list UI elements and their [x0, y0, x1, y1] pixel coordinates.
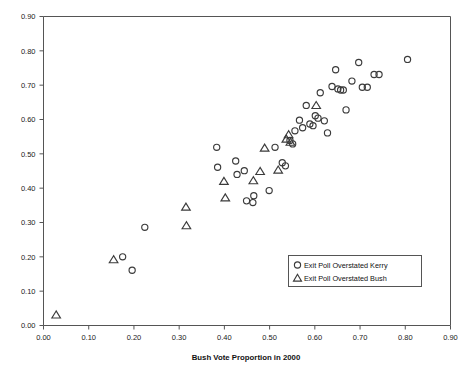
x-tick-label: 0.40	[217, 333, 232, 342]
legend-item-label: Exit Poll Overstated Kerry	[304, 261, 388, 270]
plot-canvas: 0.000.100.200.300.400.500.600.700.800.90…	[0, 0, 473, 375]
series-kerry	[120, 56, 411, 273]
data-point-circle	[250, 199, 256, 205]
legend-item-label: Exit Poll Overstated Bush	[304, 274, 387, 283]
y-tick-label: 0.90	[21, 12, 36, 21]
data-point-circle	[300, 125, 306, 131]
data-point-triangle	[256, 167, 265, 174]
x-tick-label: 0.20	[127, 333, 142, 342]
data-point-circle	[317, 90, 323, 96]
data-point-circle	[343, 107, 349, 113]
x-axis-title: Bush Vote Proportion in 2000	[192, 353, 301, 362]
series-bush	[52, 102, 321, 318]
y-tick-label: 0.00	[21, 321, 36, 330]
data-point-triangle	[282, 135, 291, 142]
y-tick-label: 0.40	[21, 184, 36, 193]
data-point-triangle	[221, 194, 230, 201]
data-point-circle	[349, 78, 355, 84]
x-tick-label: 0.50	[262, 333, 277, 342]
data-point-circle	[241, 168, 247, 174]
data-point-circle	[303, 102, 309, 108]
data-point-triangle	[312, 102, 321, 109]
y-tick-label: 0.60	[21, 115, 36, 124]
x-tick-label: 0.90	[443, 333, 458, 342]
data-point-circle	[214, 144, 220, 150]
data-point-triangle	[249, 177, 258, 184]
data-point-circle	[333, 67, 339, 73]
data-point-circle	[215, 164, 221, 170]
data-point-circle	[356, 59, 362, 65]
data-point-circle	[404, 56, 410, 62]
data-point-circle	[234, 171, 240, 177]
chart-legend: Exit Poll Overstated KerryExit Poll Over…	[289, 256, 422, 287]
data-point-circle	[142, 224, 148, 230]
data-point-circle	[329, 83, 335, 89]
data-point-triangle	[260, 144, 269, 151]
data-point-triangle	[109, 256, 118, 263]
data-point-circle	[120, 254, 126, 260]
x-tick-label: 0.80	[398, 333, 413, 342]
data-point-circle	[272, 144, 278, 150]
x-tick-label: 0.70	[353, 333, 368, 342]
x-tick-label: 0.30	[172, 333, 187, 342]
scatter-chart: 0.000.100.200.300.400.500.600.700.800.90…	[0, 0, 473, 375]
x-tick-label: 0.60	[308, 333, 323, 342]
x-tick-label: 0.10	[81, 333, 96, 342]
data-point-circle	[324, 130, 330, 136]
data-point-circle	[321, 118, 327, 124]
data-point-triangle	[182, 222, 191, 229]
data-point-triangle	[220, 177, 229, 184]
data-point-circle	[251, 193, 257, 199]
y-tick-label: 0.20	[21, 253, 36, 262]
data-point-circle	[129, 267, 135, 273]
y-tick-label: 0.30	[21, 218, 36, 227]
y-tick-label: 0.70	[21, 81, 36, 90]
data-point-triangle	[274, 166, 283, 173]
data-point-circle	[233, 158, 239, 164]
x-tick-label: 0.00	[36, 333, 51, 342]
data-point-triangle	[182, 203, 191, 210]
y-tick-label: 0.80	[21, 47, 36, 56]
y-axis-ticks: 0.000.100.200.300.400.500.600.700.800.90	[21, 12, 44, 330]
data-point-circle	[243, 198, 249, 204]
data-point-circle	[292, 128, 298, 134]
data-point-circle	[266, 187, 272, 193]
y-tick-label: 0.10	[21, 287, 36, 296]
x-axis-ticks: 0.000.100.200.300.400.500.600.700.800.90	[36, 326, 458, 342]
y-tick-label: 0.50	[21, 150, 36, 159]
data-point-triangle	[52, 311, 61, 318]
data-point-circle	[296, 117, 302, 123]
